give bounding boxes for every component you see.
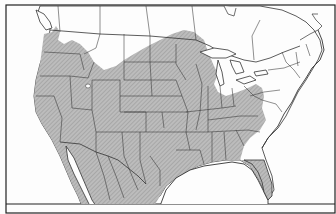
great-salt-lake — [86, 84, 91, 88]
map-svg — [0, 0, 336, 214]
range-map — [0, 0, 336, 214]
map-caption — [8, 206, 334, 214]
